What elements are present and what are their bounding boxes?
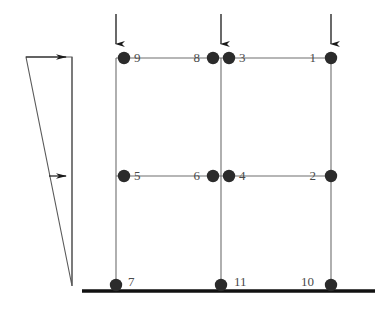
- vertical-load-arrows-group: [116, 14, 331, 44]
- nodes-group: [110, 52, 337, 291]
- node-label-4: 4: [239, 168, 246, 183]
- node-3-marker[interactable]: [223, 52, 235, 64]
- node-9-marker[interactable]: [118, 52, 130, 64]
- node-5-marker[interactable]: [118, 170, 130, 182]
- node-label-7: 7: [128, 274, 135, 289]
- frame-diagram-svg: 1 2 3 4 5 6 7 8 9 10 11: [0, 0, 385, 327]
- node-11-marker[interactable]: [215, 279, 227, 291]
- node-10-marker[interactable]: [325, 279, 337, 291]
- node-label-9: 9: [134, 50, 141, 65]
- node-label-1: 1: [310, 50, 317, 65]
- node-label-10: 10: [301, 274, 314, 289]
- frame-diagram-canvas: 1 2 3 4 5 6 7 8 9 10 11: [0, 0, 385, 327]
- node-6-marker[interactable]: [207, 170, 219, 182]
- node-label-11: 11: [234, 274, 247, 289]
- node-8-marker[interactable]: [207, 52, 219, 64]
- node-label-5: 5: [134, 168, 141, 183]
- node-labels-group: 1 2 3 4 5 6 7 8 9 10 11: [128, 50, 316, 289]
- node-label-6: 6: [194, 168, 201, 183]
- node-label-8: 8: [194, 50, 201, 65]
- node-7-marker[interactable]: [110, 279, 122, 291]
- node-4-marker[interactable]: [223, 170, 235, 182]
- triangular-lateral-load-group: [26, 57, 72, 286]
- node-1-marker[interactable]: [325, 52, 337, 64]
- lateral-load-triangle-outline: [26, 57, 72, 286]
- node-2-marker[interactable]: [325, 170, 337, 182]
- node-label-2: 2: [310, 168, 317, 183]
- node-label-3: 3: [239, 50, 246, 65]
